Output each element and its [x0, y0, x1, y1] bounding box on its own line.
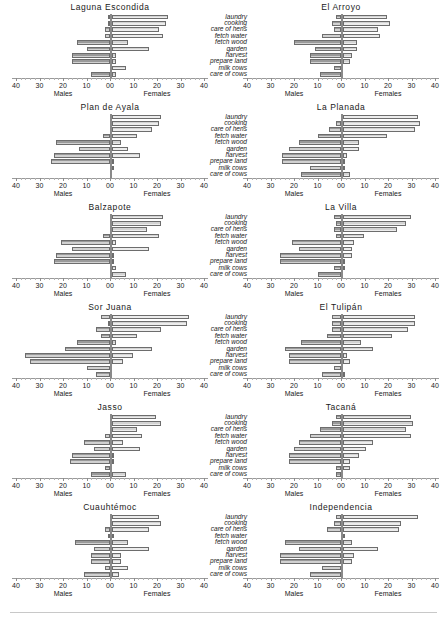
axis-tick-minor	[171, 578, 172, 580]
bar-male	[322, 372, 341, 377]
axis-tick-minor	[350, 478, 351, 480]
axis-tick	[271, 378, 272, 381]
chart-panel-left: Balzapote403020100010203040MalesFemales	[12, 200, 208, 300]
axis-tick-minor	[162, 578, 163, 580]
bar-male	[54, 153, 110, 158]
center-axis	[341, 514, 343, 578]
axis-tick-minor	[44, 378, 45, 380]
x-axis: 403020100010203040MalesFemales	[12, 478, 208, 500]
axis-tick-label: 10	[361, 582, 369, 589]
axis-tick-minor	[96, 478, 97, 480]
bar-male	[332, 327, 341, 332]
axis-tick-minor	[416, 278, 417, 280]
axis-tick-minor	[115, 578, 116, 580]
bar-female	[343, 527, 399, 532]
axis-tick-label: 30	[267, 482, 275, 489]
axis-tick-minor	[430, 78, 431, 80]
axis-tick-label: 00	[106, 382, 114, 389]
axis-tick-minor	[303, 378, 304, 380]
axis-tick-minor	[96, 178, 97, 180]
axis-tick	[16, 178, 17, 181]
axis-tick-label: 10	[83, 482, 91, 489]
axis-label-females: Females	[144, 390, 171, 397]
axis-tick-minor	[346, 178, 347, 180]
axis-tick	[341, 78, 342, 81]
axis-tick-minor	[72, 278, 73, 280]
axis-tick-minor	[82, 478, 83, 480]
axis-tick-label: 20	[290, 582, 298, 589]
axis-tick-minor	[256, 378, 257, 380]
axis-tick-label: 30	[36, 482, 44, 489]
bar-male	[310, 434, 341, 439]
bar-female	[112, 153, 140, 158]
axis-tick-minor	[416, 478, 417, 480]
axis-tick	[204, 78, 205, 81]
bar-female	[112, 340, 117, 345]
axis-tick-minor	[426, 278, 427, 280]
axis-tick	[16, 378, 17, 381]
axis-tick-minor	[49, 378, 50, 380]
axis-tick-minor	[162, 178, 163, 180]
bar-male	[25, 353, 110, 358]
axis-tick-label: 30	[177, 182, 185, 189]
axis-tick-minor	[101, 578, 102, 580]
axis-tick-minor	[171, 478, 172, 480]
axis-tick-minor	[426, 178, 427, 180]
axis-tick	[435, 378, 436, 381]
axis-tick-minor	[91, 178, 92, 180]
bar-male	[91, 559, 110, 564]
axis-tick-label: 20	[290, 482, 298, 489]
bar-female	[343, 447, 367, 452]
axis-tick-label: 40	[12, 482, 20, 489]
axis-tick	[341, 478, 342, 481]
axis-label-females: Females	[375, 490, 402, 497]
bar-female	[343, 315, 416, 320]
chart-panel-left: Jasso403020100010203040MalesFemales	[12, 400, 208, 500]
bar-female	[112, 247, 150, 252]
axis-tick-minor	[322, 278, 323, 280]
bar-female	[343, 247, 352, 252]
axis-tick-minor	[393, 478, 394, 480]
axis-tick	[341, 178, 342, 181]
axis-tick-minor	[176, 378, 177, 380]
plot-area	[243, 14, 439, 78]
axis-tick-minor	[68, 478, 69, 480]
axis-tick-minor	[199, 478, 200, 480]
axis-tick-minor	[299, 178, 300, 180]
axis-tick	[388, 378, 389, 381]
panel-title: Plan de Ayala	[12, 102, 208, 112]
axis-tick-minor	[397, 78, 398, 80]
axis-tick	[388, 78, 389, 81]
axis-tick-label: 30	[408, 582, 416, 589]
bar-male	[51, 159, 110, 164]
plot-area	[243, 314, 439, 378]
axis-tick-label: 40	[243, 382, 251, 389]
axis-tick-minor	[49, 478, 50, 480]
axis-tick-minor	[54, 78, 55, 80]
bar-female	[343, 266, 345, 271]
axis-tick-minor	[346, 378, 347, 380]
axis-tick-minor	[190, 178, 191, 180]
axis-tick-minor	[82, 378, 83, 380]
axis-tick-label: 20	[59, 282, 67, 289]
axis-tick	[16, 78, 17, 81]
axis-tick-label: 20	[290, 282, 298, 289]
axis-tick-label: 10	[130, 82, 138, 89]
axis-tick-minor	[322, 78, 323, 80]
axis-tick-minor	[280, 378, 281, 380]
axis-tick-label: 30	[267, 182, 275, 189]
axis-tick	[318, 378, 319, 381]
axis-tick-minor	[185, 378, 186, 380]
axis-tick-minor	[124, 178, 125, 180]
axis-tick	[181, 378, 182, 381]
bar-female	[112, 234, 159, 239]
axis-tick-minor	[124, 78, 125, 80]
axis-tick-minor	[336, 378, 337, 380]
bar-male	[70, 459, 110, 464]
axis-tick-minor	[383, 478, 384, 480]
axis-tick-minor	[171, 378, 172, 380]
bar-female	[343, 427, 406, 432]
axis-tick-minor	[275, 78, 276, 80]
axis-tick-minor	[119, 78, 120, 80]
axis-tick-minor	[49, 278, 50, 280]
